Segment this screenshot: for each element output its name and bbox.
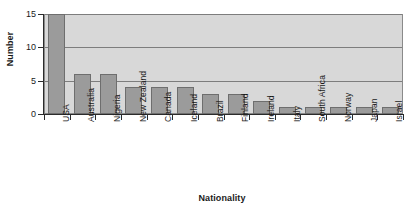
gridline	[45, 47, 402, 48]
x-axis-tick-mark	[403, 115, 404, 120]
x-axis-tick-mark	[198, 115, 199, 120]
y-axis-tick-label: 15	[6, 9, 36, 19]
y-axis-line	[43, 14, 44, 115]
x-axis-tick-mark	[172, 115, 173, 120]
x-axis-tick-mark	[121, 115, 122, 120]
x-axis-tick-mark	[147, 115, 148, 120]
y-axis-tick-mark	[38, 47, 44, 48]
x-axis-tick-mark	[275, 115, 276, 120]
y-axis-tick-label: 10	[6, 42, 36, 52]
x-axis-title: Nationality	[40, 193, 404, 203]
x-axis-tick-mark	[352, 115, 353, 120]
x-axis-tick-mark	[224, 115, 225, 120]
y-axis-tick-mark	[38, 81, 44, 82]
gridline	[45, 14, 402, 15]
x-axis-tick-mark	[300, 115, 301, 120]
y-axis-tick-label: 5	[6, 76, 36, 86]
gridline	[45, 81, 402, 82]
bar-chart: Number 051015 USAAustraliaNigeriaNew Zea…	[0, 0, 420, 215]
x-axis-tick-mark	[326, 115, 327, 120]
y-axis-tick-labels: 051015	[0, 0, 36, 215]
x-axis-tick-mark	[44, 115, 45, 120]
x-axis-tick-mark	[249, 115, 250, 120]
x-axis-tick-mark	[70, 115, 71, 120]
y-axis-tick-label: 0	[6, 109, 36, 119]
x-axis-tick-mark	[377, 115, 378, 120]
x-axis-tick-mark	[95, 115, 96, 120]
y-axis-tick-mark	[38, 14, 44, 15]
bar	[48, 14, 65, 114]
